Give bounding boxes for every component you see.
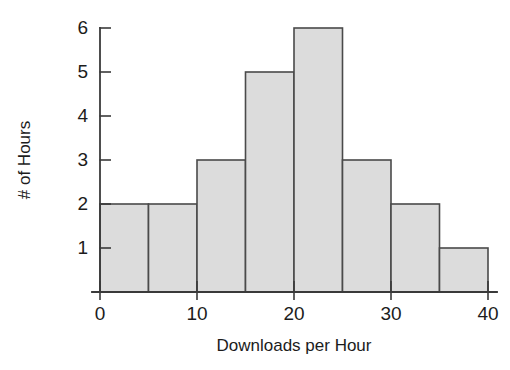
histogram-bar [440,248,489,292]
histogram-svg: 123456010203040Downloads per Hour# of Ho… [0,0,510,370]
x-tick-label: 30 [380,303,401,324]
y-tick-label: 6 [77,17,88,38]
x-tick-label: 0 [95,303,106,324]
x-tick-label: 40 [477,303,498,324]
y-tick-label: 5 [77,61,88,82]
histogram-bar [391,204,440,292]
plot-area: 123456010203040Downloads per Hour# of Ho… [0,0,510,370]
y-tick-label: 2 [77,193,88,214]
histogram-bar [343,160,392,292]
y-tick-label: 1 [77,237,88,258]
histogram-bar [246,72,295,292]
x-tick-label: 20 [283,303,304,324]
histogram-bar [294,28,343,292]
histogram-bar [149,204,198,292]
y-axis-title: # of Hours [15,121,34,199]
histogram-figure: 123456010203040Downloads per Hour# of Ho… [0,0,510,370]
x-tick-label: 10 [186,303,207,324]
x-axis-title: Downloads per Hour [217,336,372,355]
y-tick-label: 4 [77,105,88,126]
histogram-bar [197,160,246,292]
y-tick-label: 3 [77,149,88,170]
